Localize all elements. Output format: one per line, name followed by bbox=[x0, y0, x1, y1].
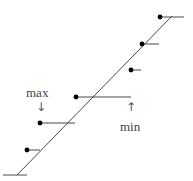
max-label: max bbox=[26, 85, 49, 100]
step-dot bbox=[129, 68, 134, 73]
step-dot bbox=[158, 15, 163, 20]
step-dot bbox=[140, 42, 145, 47]
step-dot bbox=[74, 95, 79, 100]
min-label: min bbox=[120, 119, 141, 134]
staircase-diagram: max ↓ ↑ min bbox=[0, 0, 193, 181]
step-dot bbox=[25, 148, 30, 153]
down-arrow-icon: ↓ bbox=[36, 100, 46, 114]
up-arrow-icon: ↑ bbox=[126, 100, 136, 114]
step-dot bbox=[38, 121, 43, 126]
